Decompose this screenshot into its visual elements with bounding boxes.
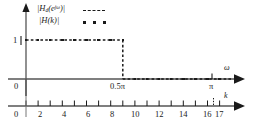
- k-tick-label-0: 0: [14, 110, 18, 119]
- y-tick-label-1: 1: [13, 36, 17, 45]
- sample-point: [37, 39, 40, 42]
- legend-label-ideal: |Hd(ejω)|: [37, 4, 65, 13]
- legend-marker-dot: [103, 21, 106, 24]
- k-axis-arrowhead: [234, 101, 245, 111]
- sample-point: [134, 78, 137, 81]
- k-tick-label-16: 16: [203, 110, 212, 119]
- sample-point: [122, 39, 125, 42]
- omega-axis-arrowhead: [234, 74, 245, 84]
- omega-tick-label-half-pi: 0.5π: [110, 82, 125, 91]
- legend-label-sampled: |H(k)|: [39, 16, 59, 25]
- k-axis-name: k: [224, 92, 228, 100]
- sample-point: [85, 39, 88, 42]
- ideal-response-curve: [26, 40, 232, 79]
- sample-point: [73, 39, 76, 42]
- legend-marker-dot: [93, 21, 96, 24]
- k-axis-ticks: [26, 101, 220, 107]
- y-axis-arrowhead: [22, 3, 29, 12]
- sample-point: [194, 78, 197, 81]
- sample-point: [206, 78, 209, 81]
- y-tick-label-0: 0: [14, 82, 18, 91]
- k-tick-label-8: 8: [110, 110, 114, 119]
- sample-point: [218, 78, 221, 81]
- sample-point: [61, 39, 64, 42]
- sample-point: [170, 78, 173, 81]
- k-tick-label-12: 12: [155, 110, 164, 119]
- k-tick-label-2: 2: [38, 110, 42, 119]
- k-tick-label-10: 10: [131, 110, 140, 119]
- sample-point: [109, 39, 112, 42]
- sample-point: [146, 78, 149, 81]
- k-tick-label-6: 6: [86, 110, 90, 119]
- sample-point: [25, 39, 28, 42]
- k-tick-label-14: 14: [179, 110, 188, 119]
- sample-point: [49, 39, 52, 42]
- k-tick-label-17: 17: [215, 110, 224, 119]
- sample-point: [97, 39, 100, 42]
- sample-point: [182, 78, 185, 81]
- sample-point: [158, 78, 161, 81]
- k-tick-label-4: 4: [62, 110, 66, 119]
- omega-tick-label-pi: π: [209, 82, 213, 91]
- legend-marker-dashed-line: [83, 10, 105, 11]
- figure-canvas: |Hd(ejω)| |H(k)| 1 0 0.5π π ω 0 2 4 6 8 …: [0, 0, 256, 128]
- legend-marker-dot: [83, 21, 86, 24]
- omega-axis-name: ω: [224, 64, 230, 72]
